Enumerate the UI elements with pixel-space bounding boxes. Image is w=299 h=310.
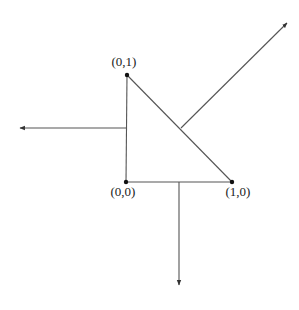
vertex-dot-y-unit [125, 73, 129, 77]
diagonal-normal-arrow [181, 23, 287, 128]
vertex-label-x-unit: (1,0) [226, 184, 251, 199]
vertex-label-y-unit: (0,1) [112, 54, 137, 69]
edge-hypotenuse [127, 75, 232, 182]
vertex-label-origin: (0,0) [111, 184, 136, 199]
triangle-diagram: (0,0) (1,0) (0,1) [0, 0, 299, 310]
